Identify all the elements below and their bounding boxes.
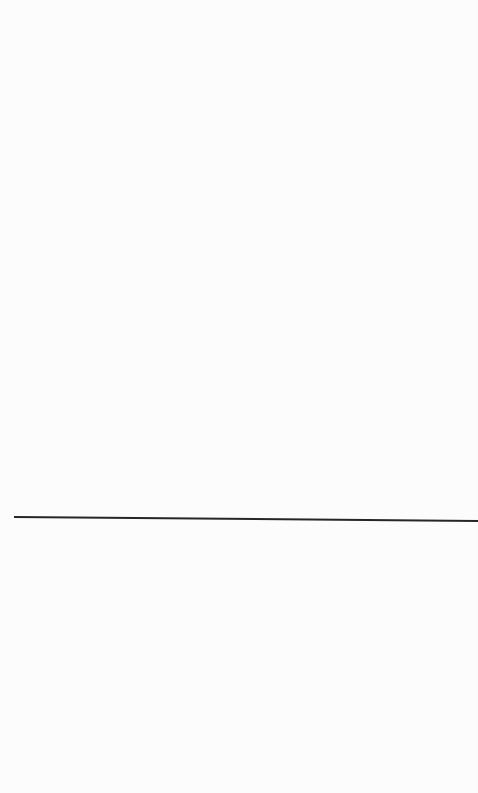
horizontal-separator-line — [14, 516, 478, 522]
